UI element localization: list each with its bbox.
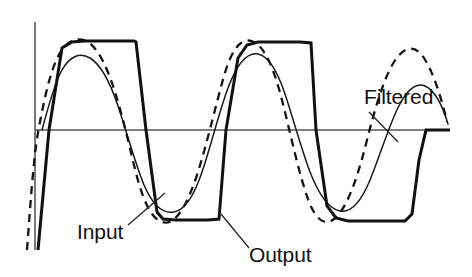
filtered-label: Filtered [364,86,433,107]
output-label: Output [249,244,311,265]
waveform-canvas [0,0,472,277]
waveform-figure: Filtered Input Output [0,0,472,277]
input-label: Input [77,221,123,242]
output-leader-line [221,214,249,248]
